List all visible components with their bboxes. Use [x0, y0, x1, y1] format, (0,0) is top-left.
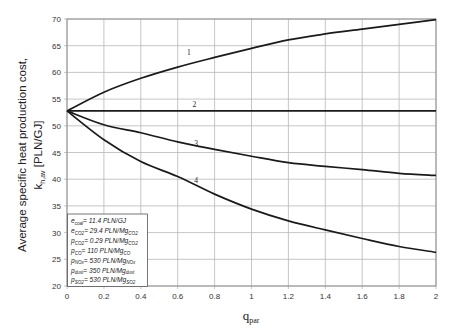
y-tick-label: 40	[52, 175, 61, 184]
x-axis-ticks: 00.20.40.60.811.21.41.61.82	[65, 292, 439, 301]
y-tick-label: 20	[52, 282, 61, 291]
y-tick-label: 65	[52, 42, 61, 51]
x-tick-label: 1.2	[283, 292, 295, 301]
y-axis-label-line2: kh,av [PLN/GJ]	[32, 121, 46, 190]
y-axis-label: Average specific heat production cost, k…	[16, 58, 46, 252]
x-tick-label: 0.4	[135, 292, 147, 301]
x-tick-label: 0.8	[209, 292, 221, 301]
curve-label-1: 1	[187, 48, 191, 57]
y-tick-label: 70	[52, 15, 61, 24]
y-tick-label: 50	[52, 122, 61, 131]
curve-label-2: 2	[192, 100, 196, 109]
y-tick-label: 30	[52, 229, 61, 238]
x-tick-label: 0	[65, 292, 70, 301]
x-tick-label: 1.8	[394, 292, 406, 301]
y-axis-ticks: 2025303540455055606570	[52, 15, 61, 291]
x-tick-label: 1	[249, 292, 254, 301]
x-tick-label: 0.2	[98, 292, 110, 301]
x-tick-label: 2	[434, 292, 439, 301]
x-tick-label: 1.6	[357, 292, 369, 301]
line-chart: 1234 2025303540455055606570 00.20.40.60.…	[0, 0, 454, 333]
x-tick-label: 0.6	[172, 292, 184, 301]
y-tick-label: 55	[52, 95, 61, 104]
curve-labels: 1234	[187, 48, 198, 185]
y-tick-label: 35	[52, 202, 61, 211]
y-tick-label: 60	[52, 68, 61, 77]
curve-label-4: 4	[194, 176, 198, 185]
curve-label-3: 3	[194, 139, 198, 148]
y-axis-label-line1: Average specific heat production cost,	[16, 58, 28, 252]
y-tick-label: 45	[52, 149, 61, 158]
parameter-legend: ecoal= 11.4 PLN/GJeCO2= 29.4 PLN/MgCO2pC…	[68, 214, 148, 287]
x-tick-label: 1.4	[320, 292, 332, 301]
y-tick-label: 25	[52, 255, 61, 264]
x-axis-label: qpar	[243, 308, 260, 325]
